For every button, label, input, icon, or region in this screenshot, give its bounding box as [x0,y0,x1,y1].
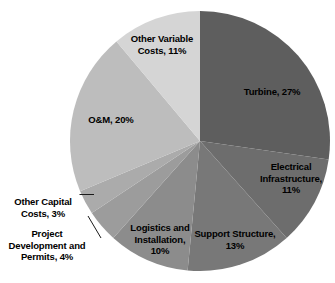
pie-label-project-development-and-permits: Project Development and Permits, 4% [0,228,94,263]
pie-label-logistics-and-installation: Logistics and Installation, 10% [124,222,196,257]
pie-label-support-structure: Support Structure, 13% [186,228,284,251]
pie-chart-figure: Turbine, 27% Electrical Infrastructure, … [0,0,335,283]
pie-label-electrical-infrastructure: Electrical Infrastructure, 11% [248,161,334,196]
pie-label-other-variable-costs: Other Variable Costs, 11% [114,33,210,56]
pie-label-om: O&M, 20% [72,114,150,126]
pie-label-other-capital-costs: Other Capital Costs, 3% [0,196,86,219]
pie-label-turbine: Turbine, 27% [226,86,318,98]
